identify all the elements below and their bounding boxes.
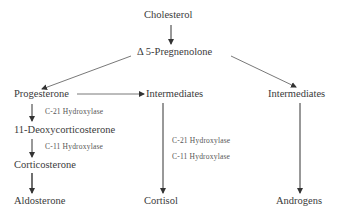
node-cortisol: Cortisol — [144, 195, 178, 206]
node-aldosterone: Aldosterone — [14, 195, 65, 206]
arrow-pregnenolone-progesterone — [42, 56, 131, 89]
node-intermediates-mid: Intermediates — [146, 88, 203, 99]
node-cholesterol: Cholesterol — [144, 9, 192, 20]
enzyme-label-mid-c21: C-21 Hydroxylase — [172, 136, 230, 145]
node-deoxycorticosterone: 11-Deoxycorticosterone — [14, 124, 115, 135]
enzyme-label-left-c11: C-11 Hydroxylase — [45, 142, 103, 151]
enzyme-label-mid-c11: C-11 Hydroxylase — [172, 152, 230, 161]
node-corticosterone: Corticosterone — [14, 159, 76, 170]
node-pregnenolone: Δ 5-Pregnenolone — [137, 46, 212, 57]
node-progesterone: Progesterone — [14, 88, 69, 99]
arrow-pregnenolone-intermediates-right — [231, 56, 296, 87]
enzyme-label-left-c21: C-21 Hydroxylase — [45, 107, 103, 116]
node-androgens: Androgens — [276, 195, 322, 206]
node-intermediates-right: Intermediates — [268, 88, 325, 99]
